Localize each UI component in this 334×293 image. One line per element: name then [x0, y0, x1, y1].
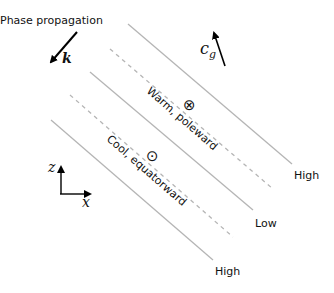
phase-propagation-label: Phase propagation	[0, 14, 103, 27]
high-bottom-label: High	[215, 265, 240, 278]
x-axis-label: x	[82, 194, 90, 210]
diagram-svg: Phase propagation k c g ⊗ ⊙ Warm, polewa…	[0, 0, 334, 293]
low-label: Low	[255, 217, 277, 230]
contour-high-bottom	[51, 120, 213, 260]
cg-subscript: g	[209, 48, 216, 61]
z-axis-label: z	[47, 159, 56, 175]
cool-equatorward-label: Cool, equatorward	[104, 132, 189, 208]
cg-label: c	[200, 39, 209, 58]
warm-poleward-label: Warm, poleward	[144, 84, 220, 153]
k-label: k	[62, 50, 72, 66]
high-top-label: High	[294, 169, 319, 182]
wave-diagram: Phase propagation k c g ⊗ ⊙ Warm, polewa…	[0, 0, 334, 293]
